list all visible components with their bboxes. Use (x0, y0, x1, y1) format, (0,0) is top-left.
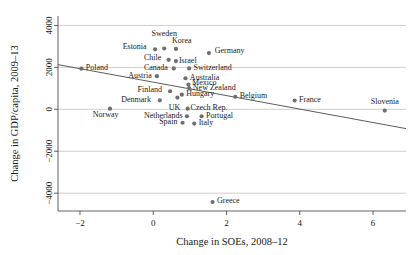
data-point-italy[interactable] (192, 121, 196, 125)
y-axis-title: Change in GDP/capita, 2009–13 (9, 45, 20, 181)
data-point-label-norway: Norway (93, 110, 119, 119)
data-point-netherlands[interactable] (185, 114, 189, 118)
data-point-germany[interactable] (207, 51, 211, 55)
x-tick-label-3: 4 (298, 218, 303, 228)
data-point-label-italy: Italy (199, 118, 214, 127)
data-point-finland[interactable] (168, 89, 172, 93)
data-point-australia[interactable] (183, 76, 187, 80)
scatter-plot: −4000−2000020004000−20246Change in SOEs,… (0, 0, 415, 255)
data-point-slovenia[interactable] (383, 108, 387, 112)
data-point-mexico[interactable] (186, 82, 190, 86)
y-tick-label-3: 2000 (44, 58, 54, 77)
data-point-france[interactable] (293, 98, 297, 102)
data-point-label-korea: Korea (172, 36, 192, 45)
data-point-poland[interactable] (79, 67, 83, 71)
data-point-czech-rep-[interactable] (186, 107, 190, 111)
x-tick-label-4: 6 (371, 218, 376, 228)
x-tick-label-1: 0 (151, 218, 156, 228)
x-axis-title: Change in SOEs, 2008–12 (176, 236, 287, 247)
y-tick-label-0: −4000 (44, 181, 54, 205)
data-point-austria[interactable] (155, 74, 159, 78)
data-point-greece[interactable] (210, 200, 214, 204)
data-point-israel[interactable] (174, 59, 178, 63)
data-point-canada[interactable] (172, 66, 176, 70)
x-tick-label-2: 2 (224, 218, 229, 228)
data-point-label-poland: Poland (86, 63, 108, 72)
data-point-label-denmark: Denmark (121, 95, 151, 104)
data-point-label-hungary: Hungary (186, 89, 214, 98)
data-point-label-finland: Finland (138, 85, 162, 94)
data-point-label-switzerland: Switzerland (194, 63, 232, 72)
data-point-uk[interactable] (175, 95, 179, 99)
data-point-korea[interactable] (174, 47, 178, 51)
data-point-sweden[interactable] (162, 46, 166, 50)
data-point-label-germany: Germany (215, 46, 245, 55)
y-tick-label-2: 0 (44, 107, 54, 112)
data-point-label-greece: Greece (217, 196, 240, 205)
data-point-label-austria: Austria (128, 71, 152, 80)
data-point-label-estonia: Estonia (123, 42, 147, 51)
data-point-spain[interactable] (180, 121, 184, 125)
data-point-label-france: France (299, 95, 321, 104)
y-tick-label-1: −2000 (44, 139, 54, 163)
x-tick-label-0: −2 (75, 218, 85, 228)
y-tick-label-4: 4000 (44, 16, 54, 35)
chart-container: −4000−2000020004000−20246Change in SOEs,… (0, 0, 415, 255)
data-point-label-belgium: Belgium (240, 91, 268, 100)
data-point-denmark[interactable] (158, 98, 162, 102)
data-point-belgium[interactable] (233, 95, 237, 99)
data-point-switzerland[interactable] (187, 66, 191, 70)
data-point-estonia[interactable] (153, 47, 157, 51)
data-point-label-slovenia: Slovenia (371, 97, 399, 106)
data-point-label-chile: Chile (144, 53, 162, 62)
data-point-hungary[interactable] (180, 93, 184, 97)
data-point-chile[interactable] (167, 58, 171, 62)
data-point-label-spain: Spain (159, 117, 177, 126)
